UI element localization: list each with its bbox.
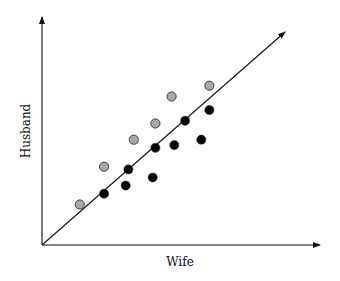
reference-diagonal-line [42,32,285,245]
data-points [75,81,214,209]
gray-data-point [167,92,176,101]
gray-data-point [151,119,160,128]
black-data-point [148,173,157,182]
black-data-point [100,189,109,198]
gray-data-point [100,162,109,171]
black-data-point [205,105,214,114]
axes [42,17,320,245]
black-data-point [181,116,190,125]
black-data-point [197,135,206,144]
gray-data-point [129,135,138,144]
y-axis-label: Husband [19,103,33,158]
gray-data-point [205,81,214,90]
gray-data-point [75,200,84,209]
black-data-point [170,141,179,150]
black-data-point [124,165,133,174]
x-axis-label: Wife [166,255,194,269]
black-data-point [121,181,130,190]
scatter-chart: Wife Husband [0,0,340,281]
black-data-point [151,143,160,152]
